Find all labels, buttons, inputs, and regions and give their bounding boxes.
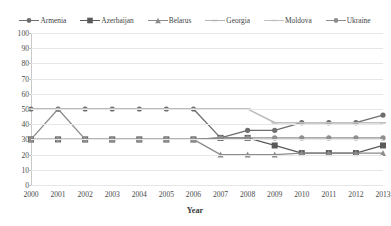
gridline-y-70	[31, 79, 383, 80]
gridline-y-0	[31, 185, 383, 186]
legend-entry-belarus[interactable]: Belarus	[148, 16, 192, 25]
gridline-y-100	[31, 33, 383, 34]
legend-label-ukraine: Ukraine	[347, 16, 371, 25]
gridline-y-50	[31, 109, 383, 110]
legend-swatch-belarus-icon	[148, 16, 168, 25]
x-tick-label-2009: 2009	[267, 190, 282, 199]
x-tick-label-2001: 2001	[50, 190, 65, 199]
x-tick-label-2005: 2005	[159, 190, 174, 199]
legend-label-azerbaijan: Azerbaijan	[101, 16, 133, 25]
legend-entry-georgia[interactable]: Georgia	[205, 16, 250, 25]
x-tick-label-2011: 2011	[321, 190, 336, 199]
series-line-belarus	[31, 109, 383, 155]
gridline-y-60	[31, 94, 383, 95]
data-point-moldova-2012	[353, 122, 359, 123]
x-tick-label-2007: 2007	[213, 190, 228, 199]
x-tick-label-2006: 2006	[186, 190, 201, 199]
gridline-y-30	[31, 139, 383, 140]
chart-legend: ArmeniaAzerbaijanBelarusGeorgiaMoldovaUk…	[0, 12, 390, 28]
gridline-y-10	[31, 170, 383, 171]
legend-label-georgia: Georgia	[226, 16, 250, 25]
series-moldova	[28, 108, 386, 123]
gridline-y-20	[31, 155, 383, 156]
legend-entry-ukraine[interactable]: Ukraine	[326, 16, 371, 25]
y-tick-label-100: 100	[3, 29, 29, 38]
legend-label-armenia: Armenia	[40, 16, 66, 25]
data-point-armenia-2009	[272, 128, 277, 133]
legend-swatch-armenia-icon	[19, 16, 39, 25]
gridline-y-90	[31, 48, 383, 49]
legend-entry-moldova[interactable]: Moldova	[264, 16, 312, 25]
x-tick-label-2010: 2010	[294, 190, 309, 199]
legend-label-moldova: Moldova	[285, 16, 312, 25]
x-tick-label-2012: 2012	[348, 190, 363, 199]
x-tick-label-2008: 2008	[240, 190, 255, 199]
data-point-armenia-2013	[380, 112, 385, 117]
legend-entry-azerbaijan[interactable]: Azerbaijan	[80, 16, 133, 25]
gridline-y-80	[31, 63, 383, 64]
y-tick-label-10: 10	[3, 165, 29, 174]
data-point-moldova-2013	[380, 122, 386, 123]
y-tick-label-90: 90	[3, 44, 29, 53]
legend-swatch-moldova-icon	[264, 16, 284, 25]
y-tick-label-0: 0	[3, 181, 29, 190]
y-tick-label-70: 70	[3, 74, 29, 83]
x-tick-label-2013: 2013	[375, 190, 390, 199]
x-tick-label-2004: 2004	[132, 190, 147, 199]
legend-entry-armenia[interactable]: Armenia	[19, 16, 66, 25]
x-axis-tick-labels: 2000200120022003200420052006200720082009…	[31, 190, 383, 204]
legend-label-belarus: Belarus	[169, 16, 192, 25]
legend-swatch-ukraine-icon	[326, 16, 346, 25]
y-tick-label-20: 20	[3, 150, 29, 159]
legend-swatch-azerbaijan-icon	[80, 16, 100, 25]
y-tick-label-40: 40	[3, 120, 29, 129]
y-tick-label-50: 50	[3, 105, 29, 114]
y-axis-tick-labels: 0102030405060708090100	[0, 33, 29, 185]
legend-swatch-georgia-icon	[205, 16, 225, 25]
data-point-moldova-2011	[326, 122, 332, 123]
gridline-y-40	[31, 124, 383, 125]
data-point-azerbaijan-2013	[380, 142, 386, 148]
data-point-moldova-2010	[299, 122, 305, 123]
series-georgia	[28, 108, 386, 123]
data-point-moldova-2009	[272, 122, 278, 123]
data-point-azerbaijan-2009	[272, 142, 278, 148]
series-belarus	[28, 106, 386, 158]
x-tick-label-2003: 2003	[105, 190, 120, 199]
y-tick-label-30: 30	[3, 135, 29, 144]
x-axis-title: Year	[0, 206, 390, 215]
plot-area	[31, 33, 383, 185]
y-tick-label-60: 60	[3, 89, 29, 98]
y-tick-label-80: 80	[3, 59, 29, 68]
x-tick-label-2000: 2000	[23, 190, 38, 199]
data-point-armenia-2008	[245, 128, 250, 133]
x-tick-label-2002: 2002	[78, 190, 93, 199]
